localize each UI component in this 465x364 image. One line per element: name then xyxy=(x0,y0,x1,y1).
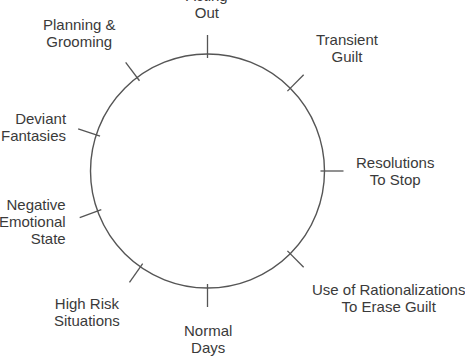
cycle-node-label-line: State xyxy=(0,230,66,247)
cycle-node-label-line: Grooming xyxy=(43,33,116,50)
cycle-node-label-line: Fantasies xyxy=(1,127,66,144)
cycle-node-acting-out[interactable]: ActingOut xyxy=(186,0,228,21)
cycle-node-planning-and-grooming[interactable]: Planning &Grooming xyxy=(43,16,116,50)
cycle-node-label-line: Planning & xyxy=(43,16,116,33)
cycle-node-label-line: Deviant xyxy=(1,110,66,127)
cycle-node-normal-days[interactable]: NormalDays xyxy=(184,322,232,356)
cycle-node-label-line: To Stop xyxy=(356,171,434,188)
cycle-node-label-line: Transient xyxy=(316,31,378,48)
tick-planning-and-grooming xyxy=(126,62,140,80)
cycle-node-transient-guilt[interactable]: TransientGuilt xyxy=(316,31,378,65)
cycle-node-label-line: Normal xyxy=(184,322,232,339)
cycle-node-label-line: Guilt xyxy=(316,48,378,65)
cycle-node-resolutions-to-stop[interactable]: ResolutionsTo Stop xyxy=(356,154,434,188)
cycle-node-deviant-fantasies[interactable]: DeviantFantasies xyxy=(1,110,66,144)
cycle-node-label-line: Resolutions xyxy=(356,154,434,171)
tick-transient-guilt xyxy=(287,75,303,91)
cycle-node-label-line: Negative xyxy=(0,196,66,213)
tick-use-of-rationalizations-to-erase-guilt xyxy=(287,251,303,267)
cycle-node-high-risk-situations[interactable]: High RiskSituations xyxy=(54,295,120,329)
cycle-node-label-line: Out xyxy=(186,4,228,21)
cycle-node-label-line: Emotional xyxy=(0,213,66,230)
tick-marks-group xyxy=(78,35,343,307)
tick-high-risk-situations xyxy=(129,264,142,283)
cycle-node-label-line: Situations xyxy=(54,312,120,329)
cycle-node-label-line: Use of Rationalizations xyxy=(312,281,465,298)
cycle-node-label-line: Days xyxy=(184,339,232,356)
cycle-node-negative-emotional-state[interactable]: NegativeEmotionalState xyxy=(0,196,66,247)
cycle-node-label-line: To Erase Guilt xyxy=(312,298,465,315)
cycle-node-label-line: High Risk xyxy=(54,295,120,312)
cycle-node-use-of-rationalizations-to-erase-guilt[interactable]: Use of RationalizationsTo Erase Guilt xyxy=(312,281,465,315)
